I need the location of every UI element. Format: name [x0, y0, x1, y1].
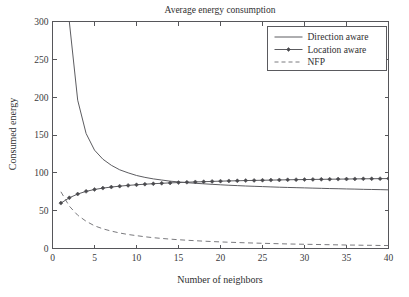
series-marker: [252, 178, 256, 182]
x-tick-label: 15: [174, 253, 184, 263]
y-axis-title: Consumed energy: [7, 98, 18, 170]
series-marker: [109, 185, 113, 189]
series-marker: [336, 177, 340, 181]
x-tick-label: 30: [300, 253, 310, 263]
series-marker: [76, 192, 80, 196]
series-marker: [93, 187, 97, 191]
series-marker: [84, 189, 88, 193]
x-tick-label: 10: [132, 253, 142, 263]
y-tick-label: 50: [39, 206, 49, 216]
x-tick-label: 5: [92, 253, 97, 263]
series-marker: [303, 178, 307, 182]
legend-label-location-aware: Location aware: [308, 45, 367, 55]
series-marker: [387, 177, 391, 181]
series-marker: [135, 183, 139, 187]
series-marker: [294, 178, 298, 182]
chart-title: Average energy consumption: [165, 5, 276, 15]
series-marker: [219, 179, 223, 183]
legend-label-direction-aware: Direction aware: [308, 32, 369, 42]
y-tick-label: 100: [34, 168, 49, 178]
series-marker: [118, 184, 122, 188]
series-marker: [151, 182, 155, 186]
legend-label-nfp: NFP: [308, 57, 325, 67]
series-marker: [177, 181, 181, 185]
figure-container: Average energy consumption Consumed ener…: [0, 0, 409, 297]
series-marker: [210, 179, 214, 183]
series-marker: [227, 179, 231, 183]
series-marker: [126, 183, 130, 187]
y-tick-label: 0: [44, 244, 49, 254]
energy-consumption-chart: Average energy consumption Consumed ener…: [0, 0, 409, 297]
series-marker: [160, 181, 164, 185]
series-path-nfp: [61, 192, 389, 246]
y-tick-label: 300: [34, 17, 49, 27]
series-marker: [319, 177, 323, 181]
series-marker: [101, 186, 105, 190]
x-tick-label: 0: [50, 253, 55, 263]
series-marker: [361, 177, 365, 181]
series-marker: [143, 182, 147, 186]
y-tick-label: 200: [34, 93, 49, 103]
series-marker: [244, 179, 248, 183]
series-marker: [277, 178, 281, 182]
series-marker: [345, 177, 349, 181]
series-marker: [185, 180, 189, 184]
series-marker: [269, 178, 273, 182]
y-tick-label: 250: [34, 55, 49, 65]
series-path-location-aware: [61, 179, 389, 204]
series-marker: [311, 177, 315, 181]
series-marker: [370, 177, 374, 181]
x-tick-label: 20: [216, 253, 226, 263]
series-marker: [261, 178, 265, 182]
series-marker: [353, 177, 357, 181]
series-marker: [235, 179, 239, 183]
series-marker: [328, 177, 332, 181]
x-tick-label: 40: [384, 253, 394, 263]
series-marker: [286, 178, 290, 182]
x-axis-title: Number of neighbors: [177, 274, 263, 285]
x-tick-label: 35: [342, 253, 352, 263]
chart-legend: Direction awareLocation awareNFP: [268, 27, 387, 71]
y-tick-label: 150: [34, 130, 49, 140]
x-tick-label: 25: [258, 253, 268, 263]
series-marker: [378, 177, 382, 181]
series-marker: [202, 180, 206, 184]
